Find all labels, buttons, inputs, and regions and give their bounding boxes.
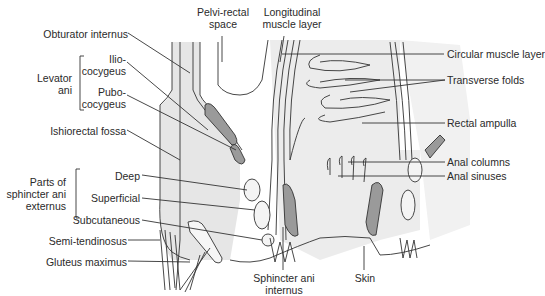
label-rectal-ampulla: Rectal ampulla [447, 117, 516, 129]
label-anal-sinuses: Anal sinuses [447, 170, 507, 182]
label-semi-tendinosus: Semi-tendinosus [0, 235, 127, 247]
label-circular-muscle-layer: Circular muscle layer [447, 48, 545, 60]
label-longitudinal-muscle-layer: Longitudinalmuscle layer [256, 6, 328, 30]
label-anal-columns: Anal columns [447, 156, 510, 168]
label-gluteus-maximus: Gluteus maximus [0, 256, 127, 268]
label-parts-sphincter-externus: Parts ofsphincter aniexternus [0, 176, 66, 212]
label-transverse-folds: Transverse folds [447, 74, 524, 86]
label-superficial: Superficial [80, 192, 140, 204]
label-obturator-internus: Obturator internus [0, 28, 128, 40]
label-ilio-cocygeus: Ilio-cocygeus [80, 53, 126, 77]
label-subcutaneous: Subcutaneous [70, 214, 140, 226]
label-deep: Deep [80, 170, 140, 182]
label-pubo-cocygeus: Pubo-cocygeus [80, 86, 126, 110]
label-ishiorectal-fossa: Ishiorectal fossa [0, 125, 126, 137]
label-levator-ani: Levatorani [20, 72, 72, 96]
label-sphincter-ani-internus: Sphincter aniinternus [246, 272, 322, 296]
label-pelvi-rectal-space: Pelvi-rectalspace [190, 6, 256, 30]
label-skin: Skin [350, 272, 380, 284]
